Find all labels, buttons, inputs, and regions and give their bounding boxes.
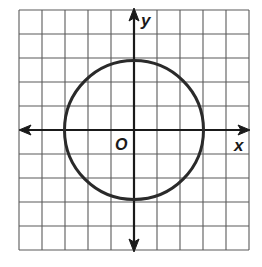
y-axis-label: y	[140, 11, 152, 30]
x-axis-label: x	[233, 136, 245, 155]
coordinate-plane: y x O	[0, 0, 262, 267]
origin-label: O	[115, 136, 128, 153]
